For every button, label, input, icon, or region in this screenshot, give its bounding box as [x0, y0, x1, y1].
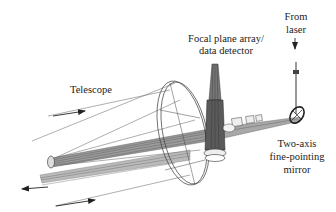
from-laser-label-line2: laser: [286, 24, 306, 35]
mirror-label-line2: fine-pointing: [270, 151, 326, 162]
telescope-tube: [40, 115, 300, 185]
optical-system-diagram: Telescope Focal plane array/ data detect…: [0, 0, 336, 212]
focal-plane-label-line2: data detector: [199, 45, 253, 56]
telescope-label: Telescope: [70, 84, 112, 95]
outgoing-beam-arrow-left: [22, 187, 48, 189]
mirror-label-line3: mirror: [284, 164, 311, 175]
detector-tower: [204, 64, 235, 162]
laser-feed: [293, 62, 299, 114]
focal-plane-label-line1: Focal plane array/: [188, 33, 264, 44]
mirror-label-line1: Two-axis: [278, 138, 317, 149]
from-laser-label-line1: From: [285, 11, 308, 22]
incoming-beam-arrow-bottom: [56, 200, 95, 206]
